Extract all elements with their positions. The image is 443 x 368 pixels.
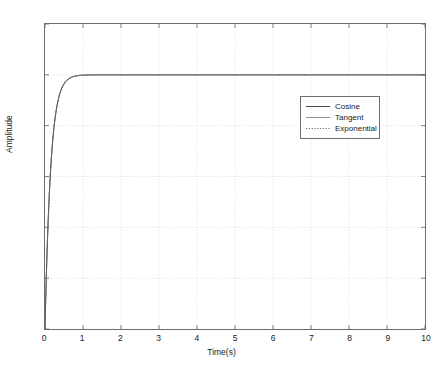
figure-canvas: 00.20.40.60.811.2 012345678910 Amplitude… (0, 0, 443, 368)
x-tick-label: 3 (144, 334, 174, 343)
legend-box[interactable]: CosineTangentExponential (300, 96, 380, 139)
legend-line-sample-cosine (305, 102, 331, 111)
x-tick-label: 5 (220, 334, 250, 343)
legend-label: Exponential (335, 124, 377, 133)
legend-label: Tangent (335, 113, 363, 122)
y-axis-label: Amplitude (4, 115, 14, 153)
x-axis-label: Time(s) (0, 347, 443, 357)
legend-line-sample-tangent (305, 113, 331, 122)
x-tick-label: 0 (29, 334, 59, 343)
legend-item-cosine[interactable]: Cosine (305, 101, 376, 112)
plot-area (44, 23, 426, 330)
legend-item-exponential[interactable]: Exponential (305, 123, 376, 134)
legend-line-sample-exponential (305, 124, 331, 133)
x-tick-label: 8 (335, 334, 365, 343)
legend-item-tangent[interactable]: Tangent (305, 112, 376, 123)
x-tick-label: 6 (258, 334, 288, 343)
x-tick-label: 10 (411, 334, 441, 343)
x-tick-label: 2 (105, 334, 135, 343)
x-tick-label: 9 (373, 334, 403, 343)
data-curves (45, 24, 425, 329)
x-tick-label: 4 (182, 334, 212, 343)
x-tick-label: 7 (296, 334, 326, 343)
legend-label: Cosine (335, 102, 360, 111)
x-tick-label: 1 (67, 334, 97, 343)
